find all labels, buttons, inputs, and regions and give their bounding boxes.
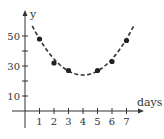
y-tick-label: 10 [7, 91, 20, 102]
x-tick-label: 3 [65, 116, 71, 127]
x-axis-arrow-icon [138, 109, 144, 114]
data-point [51, 60, 56, 65]
x-tick-label: 1 [36, 116, 42, 127]
data-point [37, 36, 42, 41]
x-tick-label: 5 [94, 116, 100, 127]
y-axis-label: y [29, 8, 37, 21]
axes [12, 10, 144, 128]
data-point [66, 68, 71, 73]
x-tick-label: 4 [80, 116, 86, 127]
data-point [124, 38, 129, 43]
y-tick-label: 50 [7, 31, 20, 42]
y-tick-label: 30 [7, 61, 20, 72]
x-axis-label: days [137, 96, 163, 109]
x-tick-label: 6 [109, 116, 115, 127]
data-point [109, 59, 114, 64]
chart: 1234567 103050 y days [0, 0, 164, 139]
x-tick-label: 2 [51, 116, 57, 127]
x-tick-label: 7 [123, 116, 129, 127]
fitted-curve [32, 26, 134, 75]
y-axis-arrow-icon [23, 10, 28, 16]
data-point [95, 68, 100, 73]
